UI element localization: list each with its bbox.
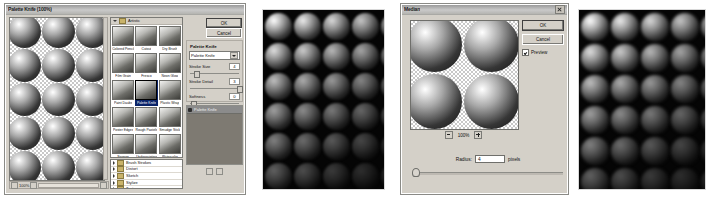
chevron-right-icon[interactable] [113,167,115,171]
thumbnail-paint-daubs[interactable]: Paint Daubs [112,80,134,106]
minus-icon[interactable] [445,131,453,139]
plus-icon[interactable] [474,131,482,139]
effect-layer-row[interactable]: Palette Knife [187,106,242,114]
radius-input[interactable]: 4 [475,155,505,163]
sphere [581,44,609,72]
gallery-vertical-scrollbar[interactable] [103,17,108,180]
chevron-right-icon[interactable] [113,161,115,165]
eye-icon[interactable] [188,108,192,112]
category-label: Stylize [126,180,138,186]
sphere [611,106,639,134]
zoom-in-icon[interactable] [30,182,37,189]
delete-effect-layer-icon[interactable] [216,168,223,175]
sphere [294,73,321,100]
zoom-out-icon[interactable] [11,182,18,189]
gallery-cancel-button[interactable]: Cancel [206,28,242,38]
folder-icon [117,166,124,172]
thumbnail-dry-brush[interactable]: Dry Brush [159,26,181,52]
median-radius-row: Radius: 4 pixels [410,154,566,164]
median-preview-canvas[interactable] [410,20,519,130]
chevron-down-icon[interactable] [113,20,117,22]
median-preview-spheres [411,21,518,129]
sphere [641,44,669,72]
sphere [381,163,384,189]
sphere [323,43,350,70]
thumbnail-image [112,80,134,100]
thumbnail-plastic-wrap[interactable]: Plastic Wrap [159,80,181,106]
thumbnail-label: Smudge Stick [159,127,180,133]
category-label: Sketch [126,173,138,179]
effect-layers-panel[interactable]: Palette Knife [186,105,243,165]
slider-value[interactable]: 3 [229,78,240,85]
median-titlebar[interactable]: Median [402,5,567,15]
figure-root: Palette Knife (100%) 100% Artistic [0,0,717,198]
slider-value[interactable]: 4 [229,63,240,70]
thumbnail-label: Plastic Wrap [160,100,179,106]
filter-select[interactable]: Palette Knife [189,51,240,60]
sphere [265,73,292,100]
thumbnail-label: Colored Pencil [112,46,134,52]
sphere [294,103,321,130]
thumbnail-smudge-stick[interactable]: Smudge Stick [159,107,181,133]
thumbnail-underpainting[interactable]: Underpainting [135,134,157,158]
thumbnail-image [159,134,181,154]
thumbnail-poster-edges[interactable]: Poster Edges [112,107,134,133]
preview-checkbox-label: Preview [531,50,547,55]
thumbnail-sponge[interactable]: Sponge [112,134,134,158]
thumbnail-image [159,26,181,46]
sphere [323,103,350,130]
gallery-titlebar[interactable]: Palette Knife (100%) [6,5,244,15]
thumbnail-film-grain[interactable]: Film Grain [112,53,134,79]
sphere [323,133,350,160]
preview-checkbox[interactable] [522,49,529,56]
sphere [671,13,699,41]
folder-icon [117,180,124,186]
thumbnail-neon-glow[interactable]: Neon Glow [159,53,181,79]
thumbnail-fresco[interactable]: Fresco [135,53,157,79]
median-ok-button[interactable]: OK [522,20,564,31]
gallery-resize-grip[interactable] [100,182,107,189]
category-label: Texture [126,186,139,189]
sphere [701,106,705,134]
gallery-horizontal-scrollbar[interactable] [38,183,99,188]
gallery-ok-button[interactable]: OK [206,18,242,28]
sphere [411,74,462,129]
sphere [265,163,292,189]
thumbnail-cutout[interactable]: Cutout [135,26,157,52]
thumbnail-palette-knife[interactable]: Palette Knife [135,80,157,106]
chevron-right-icon[interactable] [113,187,115,189]
thumbnail-colored-pencil[interactable]: Colored Pencil [112,26,134,52]
slider-handle[interactable] [194,71,200,78]
thumbnail-rough-pastels[interactable]: Rough Pastels [135,107,157,133]
slider-handle[interactable] [237,86,243,93]
thumbnail-label: Cutout [141,46,151,52]
gallery-category-list[interactable]: Brush StrokesDistortSketchStylizeTexture [110,159,183,189]
slider-stroke-detail[interactable]: Stroke Detail3 [189,78,240,91]
sphere [641,13,669,41]
slider-value[interactable]: 0 [229,93,240,100]
category-row-texture[interactable]: Texture [111,186,182,189]
chevron-down-icon[interactable] [230,52,238,59]
thumbnail-label: Rough Pastels [135,127,157,133]
sphere [611,137,639,165]
slider-stroke-size[interactable]: Stroke Size4 [189,63,240,76]
chevron-right-icon[interactable] [113,174,115,178]
thumbnail-image [112,107,134,127]
sphere [352,13,379,40]
median-cancel-button[interactable]: Cancel [522,34,564,45]
gallery-right-pane: OK Cancel Palette Knife Palette Knife St… [186,17,243,189]
folder-icon [119,18,126,24]
category-header-artistic[interactable]: Artistic [111,18,182,25]
radius-slider[interactable] [411,168,563,176]
sphere [581,13,609,41]
slider-track[interactable] [190,71,239,76]
radius-slider-handle[interactable] [412,168,420,177]
close-icon[interactable] [555,5,565,14]
slider-track[interactable] [190,86,239,91]
median-preview-checkbox-row[interactable]: Preview [522,49,566,56]
chevron-right-icon[interactable] [113,181,115,185]
thumbnail-watercolor[interactable]: Watercolor [159,134,181,158]
new-effect-layer-icon[interactable] [206,168,213,175]
gallery-thumbnail-browser[interactable]: Artistic Colored PencilCutoutDry BrushFi… [110,17,183,158]
gallery-preview-canvas[interactable] [9,17,105,181]
